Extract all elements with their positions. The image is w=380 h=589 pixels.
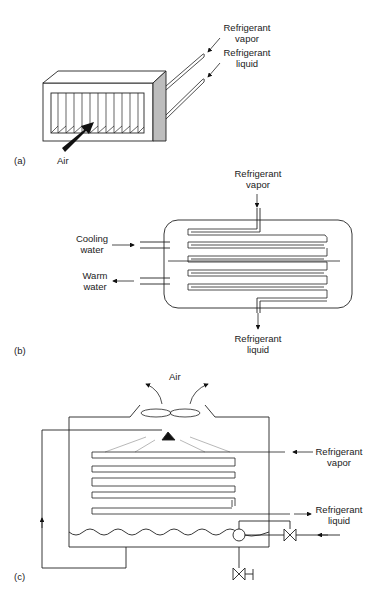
label-text: water xyxy=(78,281,112,292)
label-text: vapor xyxy=(314,457,364,468)
label-c-air: Air xyxy=(169,371,181,382)
label-text: Refrigerant xyxy=(233,168,283,179)
label-text: Warm xyxy=(78,270,112,281)
label-text: Refrigerant xyxy=(314,446,364,457)
condenser-diagram xyxy=(0,0,380,589)
label-text: Refrigerant xyxy=(222,22,272,33)
label-c-vapor: Refrigerant vapor xyxy=(314,446,364,468)
label-b-vapor: Refrigerant vapor xyxy=(233,168,283,190)
makeup-valve-icon xyxy=(284,529,340,541)
label-text: water xyxy=(72,244,112,255)
label-b-warm: Warm water xyxy=(78,270,112,292)
label-a-air: Air xyxy=(57,155,69,166)
label-b-liquid: Refrigerant liquid xyxy=(233,333,283,355)
label-text: Refrigerant xyxy=(222,47,272,58)
condenser-coil xyxy=(92,452,290,514)
label-text: vapor xyxy=(233,179,283,190)
label-text: liquid xyxy=(233,344,283,355)
label-text: Refrigerant xyxy=(233,333,283,344)
label-a-liquid: Refrigerant liquid xyxy=(222,47,272,69)
label-c-liquid: Refrigerant liquid xyxy=(314,504,364,526)
refrigerant-pipes xyxy=(166,54,204,119)
label-text: liquid xyxy=(222,58,272,69)
panel-tag-c: (c) xyxy=(14,571,25,582)
panel-tag-a: (a) xyxy=(14,155,26,166)
panel-tag-b: (b) xyxy=(14,345,26,356)
label-b-cooling: Cooling water xyxy=(72,233,112,255)
shell-and-tube-condenser xyxy=(112,194,352,329)
air-cooled-condenser xyxy=(43,38,220,141)
label-text: liquid xyxy=(314,515,364,526)
label-text: Cooling xyxy=(72,233,112,244)
label-text: vapor xyxy=(222,33,272,44)
label-text: Refrigerant xyxy=(314,504,364,515)
evaporative-condenser xyxy=(42,384,340,580)
drain-valve-icon xyxy=(233,547,253,580)
fan-icon xyxy=(141,409,200,417)
label-a-vapor: Refrigerant vapor xyxy=(222,22,272,44)
